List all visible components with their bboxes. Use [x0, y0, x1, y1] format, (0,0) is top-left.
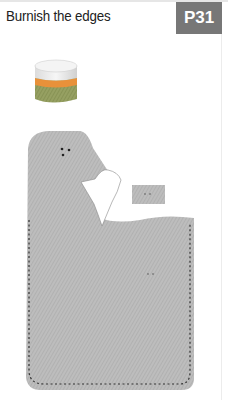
leather-tab: [132, 185, 165, 204]
instruction-illustration: [0, 0, 228, 400]
leather-piece: [26, 131, 194, 390]
burnishing-jar-icon: [35, 60, 77, 103]
